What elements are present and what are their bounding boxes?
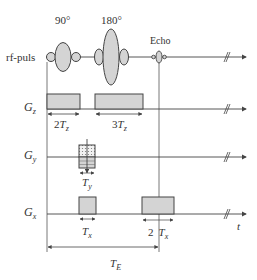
pulse-180-shape [95, 29, 129, 85]
gz-dim2-label: 3Tz [112, 118, 128, 133]
gx-dephase-lobe [79, 197, 96, 214]
gx-readout-lobe [142, 197, 174, 214]
gz-row: Gz 2Tz 3Tz [24, 94, 246, 133]
gz-slice-select-lobe [47, 94, 80, 109]
gx-dim1-label: Tx [82, 225, 92, 240]
gx-row: Gx t Tx 2Tx [24, 197, 246, 241]
echo-label: Echo [150, 35, 171, 46]
time-axis-label: t [237, 220, 241, 232]
gz-refocus-lobe [95, 94, 143, 109]
echo-time-label: TE [110, 257, 121, 272]
gy-row: Gy Ty [24, 139, 246, 191]
gy-label: Gy [24, 148, 37, 164]
pulse-180-label: 180° [101, 14, 122, 26]
pulse-sequence-diagram: rf-puls 90° 180° Echo Gz [0, 0, 257, 280]
pulse-90-shape [47, 43, 81, 72]
gy-dim-label: Ty [82, 176, 92, 191]
gz-dim1-label: 2Tz [54, 118, 70, 133]
gx-label: Gx [24, 205, 37, 221]
echo-time-dimension: TE [48, 247, 158, 272]
gx-dim2-label: 2Tx [148, 226, 169, 241]
rf-label: rf-puls [6, 51, 35, 63]
gz-label: Gz [24, 100, 37, 116]
pulse-90-label: 90° [55, 14, 70, 26]
rf-row: rf-puls 90° 180° Echo [6, 14, 246, 85]
echo-shape [152, 51, 167, 63]
